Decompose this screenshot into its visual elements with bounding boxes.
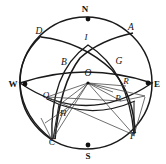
label-H: H [60, 109, 67, 118]
label-S: S [85, 152, 90, 161]
label-G: G [116, 57, 123, 67]
label-C: C [49, 138, 55, 148]
dot-O-center [86, 81, 89, 84]
label-W: W [9, 80, 18, 89]
label-D: D [36, 27, 43, 37]
label-I: I [85, 33, 88, 42]
dot-N [86, 17, 91, 22]
dot-E [146, 81, 151, 86]
dot-W [23, 82, 28, 87]
label-N: N [82, 5, 89, 14]
label-A: A [128, 23, 134, 33]
dot-S [86, 143, 91, 148]
label-O: O [85, 69, 92, 79]
celestial-sphere-figure: N S E W D A I B G O R Q P H C F [0, 0, 166, 164]
label-F: F [130, 132, 136, 142]
label-P: P [115, 94, 121, 103]
secondary-circle-left [20, 36, 53, 140]
label-E: E [154, 80, 160, 89]
label-R: R [123, 77, 129, 86]
sphere-drawing [0, 0, 166, 164]
label-B: B [61, 58, 67, 68]
label-Q: Q [43, 91, 50, 100]
